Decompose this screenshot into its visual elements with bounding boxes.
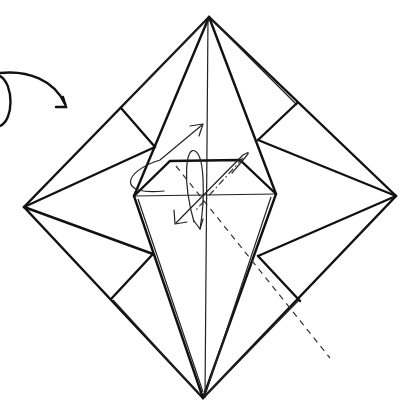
lower-right-flap	[258, 196, 396, 301]
upper-right-flap	[258, 103, 396, 196]
fold-down-arrow-icon	[174, 153, 248, 224]
diagram-svg	[0, 0, 400, 416]
fold-up-arrow-icon	[131, 124, 204, 192]
origami-diagram: Square base folded into a bird base step…	[0, 0, 400, 416]
lower-left-flap	[24, 207, 153, 298]
turn-over-arrow-icon	[0, 72, 66, 126]
vertical-crease	[205, 17, 208, 398]
fold-loop-arrow-icon	[187, 151, 204, 229]
hexagon-flap	[134, 160, 276, 196]
outer-square	[24, 17, 396, 398]
